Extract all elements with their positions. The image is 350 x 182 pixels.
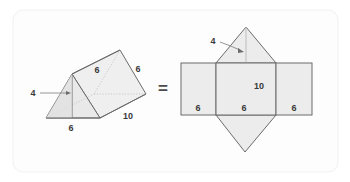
prism-label-length: 10: [123, 111, 133, 121]
equals-sign: =: [158, 79, 168, 98]
prism-label-slant-right: 6: [135, 64, 140, 74]
net-label-rect-left-width: 6: [195, 103, 200, 113]
net-label-triangle-height: 4: [210, 36, 215, 46]
net-label-rect-length: 10: [254, 81, 264, 91]
figure-canvas: 4 6 6 6 10 = 4 10: [0, 0, 350, 182]
prism-label-slant-left: 6: [94, 65, 99, 75]
prism-label-height: 4: [30, 88, 35, 98]
prism-label-base: 6: [68, 123, 73, 133]
net-label-rect-middle-width: 6: [241, 103, 246, 113]
net-label-rect-right-width: 6: [291, 103, 296, 113]
